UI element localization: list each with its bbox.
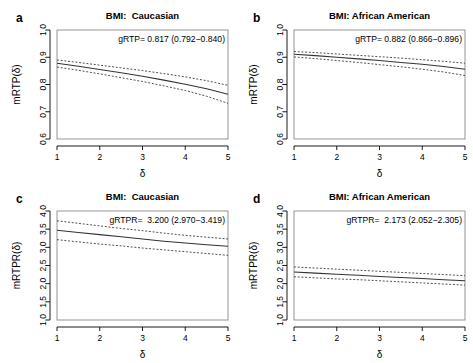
y-axis-tick-label: 1.0 (38, 314, 48, 326)
estimate-annotation: gRTP= 0.882 (0.866−0.896) (355, 34, 462, 44)
x-axis-tick-label: 1 (55, 152, 60, 162)
y-axis-title: mRTP(δ) (248, 64, 259, 104)
panel-letter: b (253, 11, 260, 25)
y-axis-tick-label: 1.5 (275, 296, 285, 308)
chart-panel-b: bBMI: African American0.60.70.80.91.0123… (237, 0, 473, 181)
plot-area-border (294, 211, 465, 320)
panel-title: BMI: Caucasian (106, 10, 180, 21)
y-axis-tick-label: 0.6 (275, 133, 285, 145)
estimate-annotation: gRTPR= 3.200 (2.970−3.419) (110, 215, 226, 225)
x-axis-tick-label: 3 (140, 152, 145, 162)
panel-title: BMI: African American (329, 10, 430, 21)
confidence-band-curve (57, 240, 228, 256)
y-axis-tick-label: 3.5 (38, 223, 48, 235)
y-axis-tick-label: 3.0 (275, 241, 285, 253)
estimate-curve (57, 63, 228, 94)
x-axis-tick-label: 3 (140, 333, 145, 343)
x-axis-title: δ (377, 168, 383, 179)
y-axis-tick-label: 2.0 (38, 277, 48, 289)
confidence-band-curve (57, 67, 228, 103)
y-axis-tick-label: 1.0 (275, 24, 285, 36)
y-axis-tick-label: 0.8 (275, 78, 285, 90)
x-axis-title: δ (377, 349, 383, 360)
y-axis-tick-label: 0.7 (38, 106, 48, 118)
y-axis-tick-label: 4.0 (275, 205, 285, 217)
x-axis-title: δ (140, 349, 146, 360)
y-axis-tick-label: 0.9 (275, 51, 285, 63)
estimate-annotation: gRTPR= 2.173 (2.052−2.305) (347, 215, 463, 225)
y-axis-title: mRTPR(δ) (11, 242, 22, 290)
x-axis-tick-label: 4 (420, 333, 425, 343)
panel-title: BMI: Caucasian (106, 191, 180, 202)
y-axis-tick-label: 2.5 (38, 259, 48, 271)
y-axis-tick-label: 3.5 (275, 223, 285, 235)
x-axis-tick-label: 4 (183, 333, 188, 343)
plot-area-border (57, 30, 228, 139)
estimate-annotation: gRTP= 0.817 (0.792−0.840) (118, 34, 225, 44)
y-axis-tick-label: 1.5 (38, 296, 48, 308)
x-axis-tick-label: 4 (183, 152, 188, 162)
x-axis-tick-label: 1 (55, 333, 60, 343)
y-axis-tick-label: 0.8 (38, 78, 48, 90)
confidence-band-curve (294, 267, 465, 276)
x-axis-tick-label: 1 (292, 152, 297, 162)
panel-title: BMI: African American (329, 191, 430, 202)
y-axis-tick-label: 0.7 (275, 106, 285, 118)
x-axis-tick-label: 5 (463, 333, 468, 343)
y-axis-tick-label: 3.0 (38, 241, 48, 253)
x-axis-tick-label: 5 (226, 152, 231, 162)
y-axis-tick-label: 2.5 (275, 259, 285, 271)
chart-panel-a: aBMI: Caucasian0.60.70.80.91.012345δmRTP… (0, 0, 236, 181)
plot-area-border (57, 211, 228, 320)
panel-letter: d (253, 192, 260, 206)
x-axis-tick-label: 5 (226, 333, 231, 343)
x-axis-tick-label: 2 (334, 333, 339, 343)
x-axis-tick-label: 2 (334, 152, 339, 162)
panel-letter: a (16, 11, 23, 25)
y-axis-title: mRTPR(δ) (248, 242, 259, 290)
y-axis-tick-label: 2.0 (275, 277, 285, 289)
x-axis-tick-label: 2 (97, 333, 102, 343)
estimate-curve (294, 272, 465, 281)
y-axis-title: mRTP(δ) (11, 64, 22, 104)
plot-area-border (294, 30, 465, 139)
x-axis-title: δ (140, 168, 146, 179)
x-axis-tick-label: 2 (97, 152, 102, 162)
x-axis-tick-label: 3 (377, 333, 382, 343)
y-axis-tick-label: 1.0 (275, 314, 285, 326)
chart-panel-d: dBMI: African American1.01.52.02.53.03.5… (237, 181, 473, 362)
estimate-curve (57, 230, 228, 246)
x-axis-tick-label: 1 (292, 333, 297, 343)
y-axis-tick-label: 0.6 (38, 133, 48, 145)
panel-letter: c (16, 192, 23, 206)
y-axis-tick-label: 4.0 (38, 205, 48, 217)
chart-panel-c: cBMI: Caucasian1.01.52.02.53.03.54.01234… (0, 181, 236, 362)
confidence-band-curve (294, 277, 465, 285)
y-axis-tick-label: 1.0 (38, 24, 48, 36)
y-axis-tick-label: 0.9 (38, 51, 48, 63)
x-axis-tick-label: 5 (463, 152, 468, 162)
figure-panel-grid: aBMI: Caucasian0.60.70.80.91.012345δmRTP… (0, 0, 473, 363)
x-axis-tick-label: 4 (420, 152, 425, 162)
confidence-band-curve (294, 52, 465, 64)
x-axis-tick-label: 3 (377, 152, 382, 162)
